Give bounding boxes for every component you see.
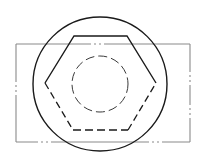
hexagon (45, 36, 156, 130)
inner-hidden-circle (72, 56, 128, 112)
technical-drawing (0, 0, 204, 167)
hex-visible-edges (45, 36, 156, 83)
plate-rectangle (16, 44, 190, 142)
outer-circle (33, 17, 167, 151)
hex-hidden-lower-left (45, 83, 73, 130)
drawing-canvas (0, 0, 204, 167)
hex-hidden-lower-right (128, 83, 156, 130)
